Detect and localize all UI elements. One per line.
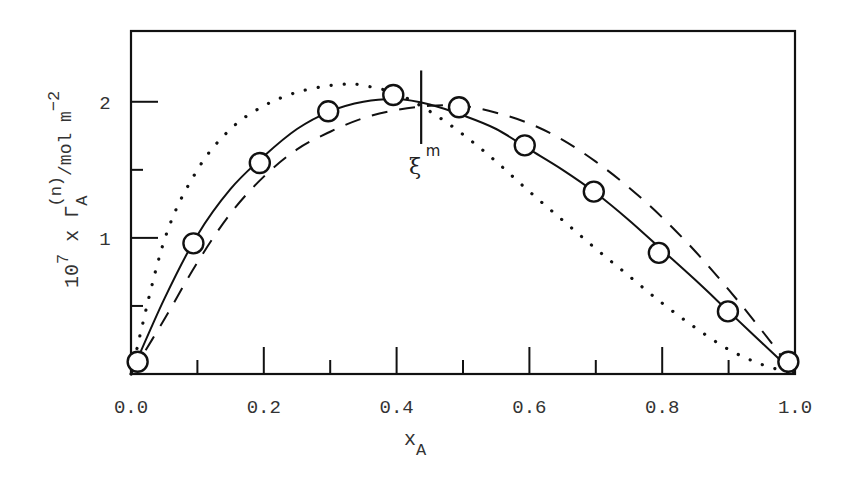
data-point xyxy=(318,101,338,121)
y-label-prefix-sup: 7 xyxy=(54,254,73,264)
plot-frame xyxy=(131,31,795,374)
x-tick-label: 0.8 xyxy=(645,397,679,419)
data-point xyxy=(649,243,669,263)
x-axis-ticks: 0.00.20.40.60.81.0 xyxy=(114,347,812,419)
xi-m-label-sup: m xyxy=(426,142,441,160)
x-axis-label-sub: A xyxy=(416,441,427,460)
series-model-dashed xyxy=(131,105,795,374)
y-tick-label: 2 xyxy=(99,93,110,115)
series-layer xyxy=(128,84,799,374)
x-axis-label: xA xyxy=(404,428,427,460)
data-point xyxy=(584,182,604,202)
y-label-gamma-sup: (n) xyxy=(47,176,66,207)
plot-border xyxy=(131,31,795,374)
y-tick-label: 1 xyxy=(99,229,110,251)
y-label-unit-sup: −2 xyxy=(45,91,64,111)
series-fit xyxy=(131,99,795,374)
x-tick-label: 0.4 xyxy=(379,397,413,419)
x-tick-label: 1.0 xyxy=(778,397,812,419)
annotation-layer: ξm xyxy=(409,70,440,179)
series-model-dotted xyxy=(131,84,795,374)
x-tick-label: 0.0 xyxy=(114,397,148,419)
data-point xyxy=(128,352,148,372)
chart: 0.00.20.40.60.81.0 12 ξm xA 107 x ΓA(n)/… xyxy=(0,0,849,489)
data-point xyxy=(718,301,738,321)
data-point xyxy=(250,153,270,173)
data-point xyxy=(778,352,798,372)
y-label-prefix: 10 xyxy=(61,264,84,288)
y-axis-label: 107 x ΓA(n)/mol m−2 xyxy=(45,91,92,288)
data-point xyxy=(449,97,469,117)
y-label-gamma-sub: A xyxy=(73,195,92,206)
data-point xyxy=(515,135,535,155)
y-label-unit: /mol m xyxy=(56,111,76,176)
data-point xyxy=(383,85,403,105)
y-axis-ticks: 12 xyxy=(99,93,158,306)
x-tick-label: 0.6 xyxy=(512,397,546,419)
x-axis-label-main: x xyxy=(404,428,416,451)
x-tick-label: 0.2 xyxy=(247,397,281,419)
data-point xyxy=(183,233,203,253)
y-label-mid: x Γ xyxy=(61,206,84,254)
xi-m-label: ξ xyxy=(409,154,421,179)
